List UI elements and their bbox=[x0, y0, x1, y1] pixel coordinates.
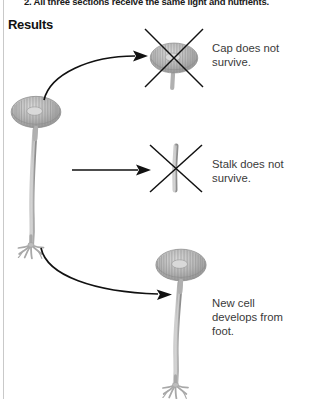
arrowhead-stalk bbox=[136, 165, 151, 176]
arrowhead-cap bbox=[133, 51, 148, 62]
source-cell-neck bbox=[35, 128, 36, 139]
result-stalk-outcome bbox=[150, 145, 202, 192]
caption-new-cell-develops-from-foot: New cell develops from foot. bbox=[212, 296, 312, 338]
new-cell-cap bbox=[156, 249, 206, 281]
new-cell-foot bbox=[163, 376, 188, 399]
source-acetabularia-cell bbox=[11, 96, 61, 258]
arrowhead-new-cell bbox=[157, 289, 172, 300]
caption-stalk-does-not-survive: Stalk does not survive. bbox=[212, 157, 312, 185]
new-cell-neck bbox=[180, 281, 181, 292]
arrow-to-cap-result bbox=[44, 56, 135, 100]
source-cell-foot bbox=[18, 236, 43, 259]
result-cap-outcome bbox=[145, 29, 203, 88]
result-new-cell-outcome bbox=[156, 249, 206, 398]
cap-outcome-neck bbox=[172, 74, 173, 88]
source-cell-cap bbox=[11, 96, 61, 127]
results-diagram-page: 2. All three sections receive the same l… bbox=[0, 0, 317, 399]
caption-cap-does-not-survive: Cap does not survive. bbox=[212, 41, 312, 69]
arrow-to-new-cell-result bbox=[41, 248, 158, 294]
